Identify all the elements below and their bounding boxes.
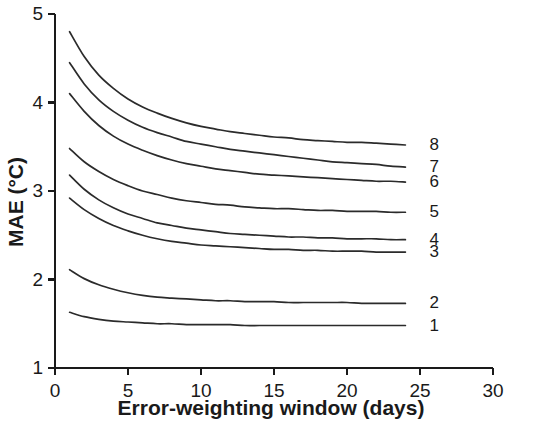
curve-4 xyxy=(70,175,406,240)
chart-figure: MAE (°C) Error-weighting window (days) 1… xyxy=(0,0,542,429)
x-tick-10: 10 xyxy=(190,380,211,402)
footer-caption xyxy=(0,419,542,429)
curve-label-5: 5 xyxy=(429,202,438,222)
curve-7 xyxy=(70,63,406,167)
x-tick-0: 0 xyxy=(50,380,61,402)
x-tick-30: 30 xyxy=(482,380,503,402)
curve-label-1: 1 xyxy=(429,316,438,336)
curve-label-2: 2 xyxy=(429,293,438,313)
y-axis-label: MAE (°C) xyxy=(4,142,28,262)
x-tick-25: 25 xyxy=(409,380,430,402)
x-tick-20: 20 xyxy=(336,380,357,402)
x-tick-5: 5 xyxy=(123,380,134,402)
curve-2 xyxy=(70,270,406,304)
y-tick-1: 1 xyxy=(0,357,43,379)
curve-label-3: 3 xyxy=(429,242,438,262)
curve-6 xyxy=(70,94,406,182)
chart-curves xyxy=(70,32,406,326)
curve-8 xyxy=(70,32,406,145)
y-tick-2: 2 xyxy=(0,269,43,291)
curve-label-8: 8 xyxy=(429,135,438,155)
chart-plot-area xyxy=(0,0,542,429)
curve-label-6: 6 xyxy=(429,172,438,192)
curve-1 xyxy=(70,312,406,325)
y-tick-3: 3 xyxy=(0,180,43,202)
y-tick-4: 4 xyxy=(0,92,43,114)
y-tick-5: 5 xyxy=(0,3,43,25)
x-tick-15: 15 xyxy=(263,380,284,402)
